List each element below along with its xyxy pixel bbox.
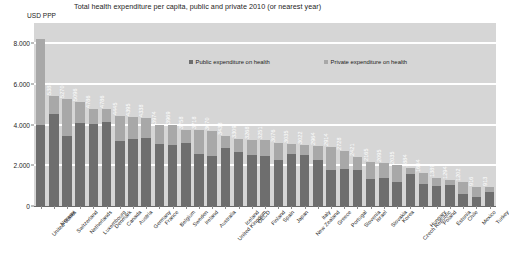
stacked-bar[interactable]: 4786: [89, 109, 99, 206]
bar-slot[interactable]: 5388: [47, 23, 60, 206]
bar-segment-private: [102, 109, 112, 122]
y-tick-label: 0: [26, 203, 30, 210]
bar-segment-private: [75, 102, 85, 122]
x-axis-labels: United StatesNorwaySwitzerlandNetherland…: [34, 209, 496, 256]
bar-value-label: 1884: [402, 154, 408, 167]
bar-segment-public: [340, 169, 350, 206]
bar-segment-public: [458, 194, 468, 206]
x-label-slot: Estonia: [443, 209, 456, 256]
bar-slot[interactable]: 913: [483, 23, 496, 206]
bar-value-label: 1294: [442, 166, 448, 179]
stacked-bar[interactable]: 3974: [155, 125, 165, 206]
stacked-bar[interactable]: 1202: [458, 182, 468, 206]
bar-segment-public: [234, 152, 244, 206]
bar-slot[interactable]: 2728: [338, 23, 351, 206]
bar-slot[interactable]: 3433: [219, 23, 232, 206]
bar-slot[interactable]: 3309: [232, 23, 245, 206]
bar-slot[interactable]: 3268: [245, 23, 258, 206]
stacked-bar[interactable]: 2914: [326, 147, 336, 206]
bar-segment-private: [260, 140, 270, 156]
stacked-bar[interactable]: [36, 39, 46, 206]
stacked-bar[interactable]: 3670: [207, 131, 217, 206]
stacked-bar[interactable]: 3035: [287, 144, 297, 206]
bar-segment-public: [207, 156, 217, 206]
bar-slot[interactable]: 2095: [377, 23, 390, 206]
bar-slot[interactable]: 3969: [166, 23, 179, 206]
bar-slot[interactable]: 2421: [351, 23, 364, 206]
stacked-bar[interactable]: 3022: [300, 145, 310, 206]
bar-segment-public: [406, 174, 416, 206]
bar-value-label: 916: [468, 177, 474, 186]
stacked-bar[interactable]: 916: [472, 187, 482, 206]
bar-value-label: 3758: [178, 116, 184, 129]
x-label-slot: Netherlands: [74, 209, 87, 256]
stacked-bar[interactable]: 3758: [181, 130, 191, 206]
stacked-bar[interactable]: 3433: [221, 136, 231, 206]
bar-slot[interactable]: 2165: [364, 23, 377, 206]
stacked-bar[interactable]: 1294: [445, 180, 455, 206]
stacked-bar[interactable]: 2728: [340, 151, 350, 206]
x-label-slot: Mexico: [470, 209, 483, 256]
stacked-bar[interactable]: 3309: [234, 139, 244, 206]
stacked-bar[interactable]: 3969: [168, 125, 178, 206]
stacked-bar[interactable]: 3268: [247, 140, 257, 206]
bar-slot[interactable]: 3718: [192, 23, 205, 206]
bar-segment-private: [326, 147, 336, 170]
stacked-bar[interactable]: 4395: [128, 117, 138, 206]
stacked-bar[interactable]: 2095: [379, 163, 389, 206]
stacked-bar[interactable]: 4445: [115, 116, 125, 206]
bar-value-label: 4338: [138, 104, 144, 117]
bar-slot[interactable]: 5270: [60, 23, 73, 206]
stacked-bar[interactable]: 5270: [62, 99, 72, 206]
bar-slot[interactable]: 3670: [206, 23, 219, 206]
bar-slot[interactable]: 2914: [324, 23, 337, 206]
stacked-bar[interactable]: 1604: [419, 173, 429, 206]
x-label-slot: OECD: [245, 209, 258, 256]
stacked-bar[interactable]: 5388: [49, 96, 59, 206]
bar-segment-public: [247, 155, 257, 206]
stacked-bar[interactable]: 2964: [313, 146, 323, 206]
stacked-bar[interactable]: 2421: [353, 157, 363, 206]
bar-segment-public: [62, 136, 72, 206]
bar-value-label: 3969: [164, 112, 170, 125]
bar-slot[interactable]: 3022: [298, 23, 311, 206]
bar-slot[interactable]: [34, 23, 47, 206]
stacked-bar[interactable]: 3076: [274, 143, 284, 206]
stacked-bar[interactable]: 3718: [194, 130, 204, 206]
stacked-bar[interactable]: 1389: [432, 178, 442, 206]
bar-segment-public: [221, 148, 231, 206]
bar-slot[interactable]: 4786: [87, 23, 100, 206]
bar-value-label: 5096: [72, 89, 78, 102]
bar-segment-public: [89, 124, 99, 206]
stacked-bar[interactable]: 2035: [392, 165, 402, 206]
bar-segment-public: [194, 154, 204, 206]
stacked-bar[interactable]: 4786: [102, 109, 112, 206]
bar-value-label: 3022: [296, 131, 302, 144]
bar-slot[interactable]: 3076: [272, 23, 285, 206]
bar-value-label: 3035: [283, 131, 289, 144]
bar-slot[interactable]: 3035: [285, 23, 298, 206]
bar-slot[interactable]: 2035: [390, 23, 403, 206]
bar-segment-private: [419, 173, 429, 184]
stacked-bar[interactable]: 4338: [141, 118, 151, 206]
x-label-slot: United Kingdom: [219, 209, 232, 256]
bar-slot[interactable]: 3758: [179, 23, 192, 206]
bar-slot[interactable]: 3251: [258, 23, 271, 206]
bar-slot[interactable]: 5096: [74, 23, 87, 206]
bar-slot[interactable]: 2964: [311, 23, 324, 206]
x-label-slot: Hungary: [417, 209, 430, 256]
stacked-bar[interactable]: 1884: [406, 168, 416, 206]
stacked-bar[interactable]: 3251: [260, 140, 270, 206]
y-tick-label: 6.000: [13, 81, 30, 88]
bar-value-label: 2728: [336, 137, 342, 150]
bar-value-label: 1202: [455, 168, 461, 181]
x-label-slot: Norway: [47, 209, 60, 256]
stacked-bar[interactable]: 2165: [366, 162, 376, 206]
stacked-bar[interactable]: 5096: [75, 102, 85, 206]
bar-segment-public: [287, 154, 297, 206]
bar-slot[interactable]: 1604: [417, 23, 430, 206]
bar-slot[interactable]: 1884: [404, 23, 417, 206]
bar-segment-private: [128, 117, 138, 140]
stacked-bar[interactable]: 913: [485, 187, 495, 206]
bar-segment-private: [300, 145, 310, 156]
